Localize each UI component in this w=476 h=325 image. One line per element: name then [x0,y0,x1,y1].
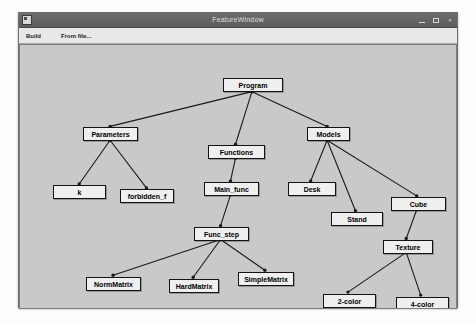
menu-item-from-file[interactable]: From file... [59,32,93,40]
tree-node-program[interactable]: Program [223,78,283,92]
tree-node-2color[interactable]: 2-color [323,294,376,308]
minimize-button[interactable] [417,16,427,25]
tree-node-desk[interactable]: Desk [288,182,336,196]
tree-edge-cube-texture [406,210,416,239]
tree-edge-texture-4color [406,252,420,295]
tree-node-models[interactable]: Models [307,127,350,141]
tree-node-normmatrix[interactable]: NormMatrix [86,277,141,291]
menu-bar: Build From file... [19,28,457,44]
close-button[interactable]: × [445,16,455,25]
tree-node-texture[interactable]: Texture [383,240,433,254]
tree-edge-program-functions [236,92,252,145]
tree-node-func_step[interactable]: Func_step [194,227,249,241]
tree-node-4color[interactable]: 4-color [396,297,449,309]
window-controls: × [417,13,455,27]
tree-edge-parameters-forbidden_f [110,140,146,188]
tree-edge-parameters-k [79,140,110,184]
maximize-button[interactable] [431,16,441,25]
tree-edge-func_step-simplematrix [221,240,265,271]
tree-edge-program-parameters [110,92,252,127]
feature-tree-canvas[interactable]: ProgramParametersFunctionsModelskforbidd… [19,44,457,309]
tree-edge-models-cube [327,140,417,196]
tree-node-parameters[interactable]: Parameters [83,127,138,141]
app-icon [22,15,32,25]
tree-node-k[interactable]: k [53,185,106,199]
menu-item-build[interactable]: Build [24,32,43,40]
tree-node-simplematrix[interactable]: SimpleMatrix [238,272,294,286]
tree-edge-program-models [252,92,327,127]
tree-node-stand[interactable]: Stand [331,212,383,226]
application-window: FeatureWindow × Build From file... Progr… [18,12,458,308]
window-title: FeatureWindow [19,13,457,27]
tree-edge-func_step-normmatrix [113,240,221,276]
window-titlebar[interactable]: FeatureWindow × [19,13,457,28]
tree-node-hardmatrix[interactable]: HardMatrix [169,279,219,293]
tree-edge-func_step-hardmatrix [193,240,220,278]
tree-node-main_func[interactable]: Main_func [204,182,259,196]
screen: FeatureWindow × Build From file... Progr… [0,0,476,325]
tree-node-forbidden_f[interactable]: forbidden_f [120,189,174,203]
tree-node-functions[interactable]: Functions [208,145,265,159]
tree-edge-functions-main_func [231,158,236,181]
tree-node-cube[interactable]: Cube [391,197,446,211]
tree-edge-models-stand [327,140,355,210]
tree-edge-main_func-func_step [221,195,231,226]
tree-edge-texture-2color [348,252,406,292]
tree-edge-models-desk [311,140,327,181]
